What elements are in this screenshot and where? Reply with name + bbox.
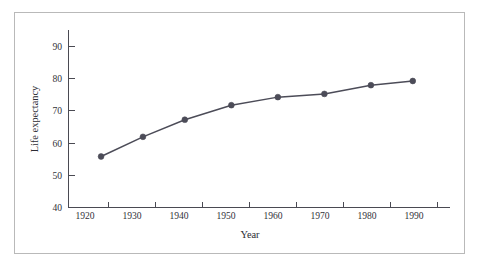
data-point-marker [182, 117, 188, 123]
y-tick-label-90: 90 [52, 41, 62, 52]
y-axis-ticks [69, 47, 75, 208]
y-axis-title: Life expectancy [29, 85, 40, 152]
data-point-marker [321, 91, 327, 97]
x-tick-label-1940: 1940 [169, 210, 188, 221]
y-tick-label-50: 50 [52, 170, 62, 181]
x-tick-label-1930: 1930 [122, 210, 141, 221]
data-series-markers [98, 78, 416, 159]
y-tick-label-70: 70 [52, 105, 62, 116]
data-point-marker [368, 82, 374, 88]
x-tick-label-1960: 1960 [263, 210, 282, 221]
data-point-marker [98, 154, 104, 160]
data-point-marker [140, 134, 146, 140]
x-tick-label-1970: 1970 [310, 210, 329, 221]
y-tick-label-80: 80 [52, 73, 62, 84]
chart-plot-area: 90 80 70 60 50 40 1920 1930 [0, 0, 481, 267]
x-tick-label-1950: 1950 [216, 210, 235, 221]
data-point-marker [228, 102, 234, 108]
data-point-marker [275, 94, 281, 100]
x-axis-title: Year [240, 229, 260, 240]
y-axis-tick-labels: 90 80 70 60 50 40 [52, 41, 62, 213]
y-tick-label-60: 60 [52, 138, 62, 149]
x-tick-label-1980: 1980 [357, 210, 376, 221]
data-series-line [101, 81, 413, 157]
x-axis-minor-ticks [109, 202, 438, 208]
data-point-marker [410, 78, 416, 84]
x-tick-label-1920: 1920 [75, 210, 94, 221]
x-axis-tick-labels: 1920 1930 1940 1950 1960 1970 1980 1990 [75, 210, 423, 221]
y-tick-label-40: 40 [52, 202, 62, 213]
line-chart-svg: 90 80 70 60 50 40 1920 1930 [0, 0, 481, 267]
x-tick-label-1990: 1990 [404, 210, 423, 221]
figure-canvas: 90 80 70 60 50 40 1920 1930 [0, 0, 481, 267]
